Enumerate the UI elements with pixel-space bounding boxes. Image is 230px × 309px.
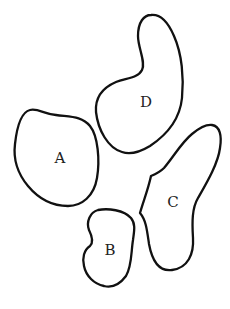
region-b-label: B (104, 241, 115, 259)
region-a-label: A (54, 149, 66, 167)
region-c: C (140, 125, 221, 270)
region-d: D (96, 15, 183, 153)
region-c-label: C (167, 193, 178, 211)
region-d-label: D (140, 93, 152, 111)
region-b: B (83, 209, 134, 286)
region-a: A (15, 110, 99, 206)
region-diagram: A D C B (0, 0, 230, 309)
region-d-outline (96, 15, 183, 153)
region-c-outline (140, 125, 221, 270)
